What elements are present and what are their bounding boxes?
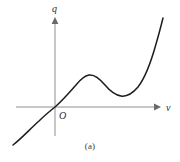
figure-container: q v O (a) — [0, 0, 180, 162]
characteristic-curve — [13, 18, 163, 145]
origin-label: O — [59, 110, 66, 121]
y-axis-arrowhead — [52, 17, 59, 24]
x-axis-arrowhead — [154, 104, 161, 111]
x-axis-label: v — [166, 102, 171, 113]
figure-caption: (a) — [0, 141, 180, 151]
y-axis-label: q — [52, 3, 57, 14]
plot-canvas: q v O — [0, 0, 180, 162]
